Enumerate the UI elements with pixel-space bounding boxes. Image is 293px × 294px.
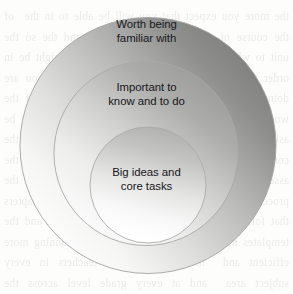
concentric-circles-diagram <box>0 0 293 294</box>
diagram-svg <box>0 0 293 294</box>
diagram-page: the more you expect that you will be abl… <box>0 0 293 294</box>
circle-inner <box>90 127 206 243</box>
